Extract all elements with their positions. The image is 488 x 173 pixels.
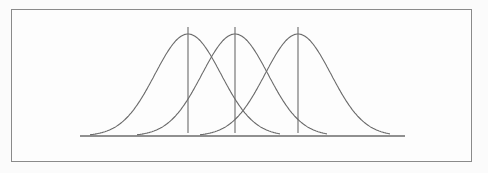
mean-line-group xyxy=(188,27,298,133)
curve-1 xyxy=(90,34,280,135)
bell-curves-plot xyxy=(0,0,488,173)
curve-3 xyxy=(200,34,390,135)
curve-group xyxy=(90,34,390,135)
